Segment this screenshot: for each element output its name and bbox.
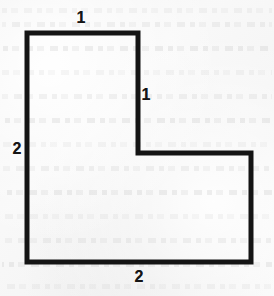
dimension-label-bottom: 2 — [135, 269, 144, 285]
dimension-label-top: 1 — [77, 10, 86, 26]
l-shape-polygon-outline — [27, 33, 251, 262]
l-shape-polygon-drawing — [0, 0, 274, 296]
geometry-figure-canvas: 1 1 2 2 — [0, 0, 274, 296]
dimension-label-inner-vertical: 1 — [142, 87, 151, 103]
dimension-label-left: 2 — [13, 141, 22, 157]
